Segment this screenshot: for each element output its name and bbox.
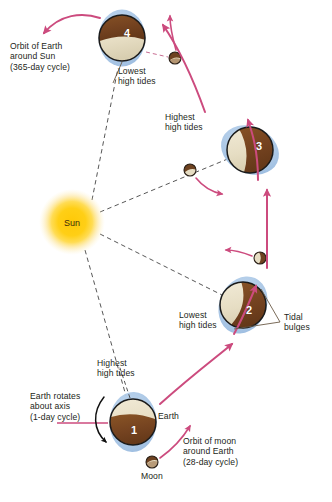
orbit-arrow-upper-right xyxy=(163,25,205,112)
label-lowest-high-tides-mid: Lowest high tides xyxy=(179,310,217,331)
moon-2[interactable] xyxy=(254,252,267,265)
label-earth-rotates: Earth rotates about axis (1-day cycle) xyxy=(30,391,80,422)
moon-orbit-arrow-earth3 xyxy=(196,178,222,194)
label-orbit-of-moon: Orbit of moon around Earth (28-day cycle… xyxy=(183,436,238,467)
earth-rotation-arrow xyxy=(96,397,106,442)
label-highest-high-tides-mid: Highest high tides xyxy=(165,112,203,133)
earth-4-number: 4 xyxy=(120,27,134,39)
earth-1-number: 1 xyxy=(127,424,141,436)
tides-diagram: Orbit of Earth around Sun (365-day cycle… xyxy=(0,0,332,502)
label-highest-high-tides-bottom: Highest high tides xyxy=(97,358,135,379)
earth-3-number: 3 xyxy=(252,140,266,152)
label-orbit-of-earth: Orbit of Earth around Sun (365-day cycle… xyxy=(10,41,70,72)
label-earth: Earth xyxy=(158,411,179,421)
orbit-arrow-top xyxy=(44,15,100,33)
leader-lines-group xyxy=(113,52,280,416)
sun-rays-dashed-group xyxy=(85,68,230,396)
earth-2-number: 2 xyxy=(242,304,256,316)
dashed-line-sun-earth2 xyxy=(100,234,224,296)
label-lowest-high-tides-top: Lowest high tides xyxy=(118,66,156,87)
leader-earth4-moon xyxy=(146,52,168,57)
moon-3[interactable] xyxy=(184,162,197,176)
dashed-line-sun-earth3 xyxy=(100,158,230,212)
moon-orbit-arrow-earth4 xyxy=(170,16,176,50)
label-tidal-bulges: Tidal bulges xyxy=(284,312,310,333)
diagram-canvas xyxy=(0,0,332,502)
orbit-arrow-bottom-right xyxy=(160,344,232,404)
label-moon: Moon xyxy=(141,471,163,481)
moon-orbit-arrow-earth2 xyxy=(226,250,252,256)
dashed-line-sun-earth4 xyxy=(92,68,118,200)
sun-label: Sun xyxy=(64,218,80,228)
moon-1[interactable] xyxy=(146,454,159,469)
